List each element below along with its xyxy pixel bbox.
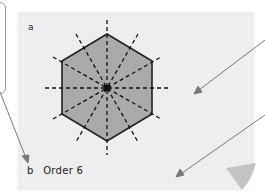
part-b-caption: b Order 6 bbox=[27, 165, 83, 176]
order-text: Order 6 bbox=[43, 165, 83, 176]
part-b-label: b bbox=[27, 165, 34, 176]
arrow-upper-right bbox=[199, 40, 265, 90]
arrow-left bbox=[0, 92, 26, 158]
part-a-label: a bbox=[28, 22, 34, 32]
centre-point bbox=[104, 85, 110, 91]
